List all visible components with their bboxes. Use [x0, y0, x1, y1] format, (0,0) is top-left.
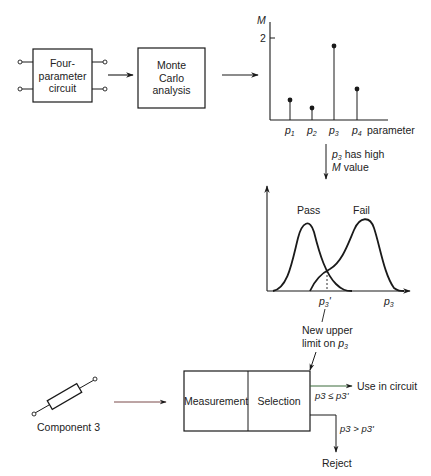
terminal-icon [103, 60, 107, 64]
sensitivity-plot [270, 22, 388, 120]
high-m-annotation-line2: M value [332, 161, 369, 173]
reject-label: Reject [322, 457, 352, 469]
reject-condition-label: p3 > p3' [340, 423, 374, 435]
selection-label: Selection [248, 395, 310, 408]
component-3-resistor-icon [32, 377, 97, 416]
circuit-block-label: Four- parameter circuit [33, 57, 92, 95]
measurement-label: Measurement [184, 395, 248, 408]
monte-carlo-label: Monte Carlo analysis [138, 59, 205, 97]
new-limit-annotation-line1: New upper [302, 324, 353, 336]
terminal-icon [18, 60, 22, 64]
param-label-p2: p2 [307, 124, 317, 140]
fail-distribution-curve [310, 219, 404, 291]
threshold-p3-prime-label: p3' [319, 295, 331, 311]
new-limit-annotation-line2: limit on p3 [302, 337, 348, 353]
component-3-label: Component 3 [37, 421, 100, 433]
param-label-p3: p3 [329, 124, 339, 140]
x-axis-label-p3: p3 [384, 295, 394, 311]
pass-label: Pass [297, 204, 320, 216]
fail-label: Fail [353, 204, 370, 216]
accept-condition-label: p3 ≤ p3' [315, 390, 348, 402]
y-tick-2: 2 [260, 32, 266, 44]
param-label-p1: p1 [285, 124, 295, 140]
arrow-limit-to-selection [310, 352, 316, 370]
pass-distribution-curve [273, 223, 352, 291]
x-axis-label-parameter: parameter [367, 124, 415, 136]
terminal-icon [18, 87, 22, 91]
terminal-icon [103, 87, 107, 91]
y-axis-label-m: M [257, 14, 266, 26]
use-in-circuit-label: Use in circuit [357, 380, 417, 392]
param-label-p4: p4 [352, 124, 362, 140]
arrow-reject [310, 415, 336, 452]
distribution-plot [267, 186, 410, 291]
